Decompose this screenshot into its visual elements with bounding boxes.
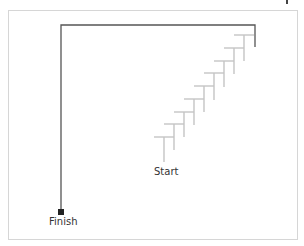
route-path [61,25,255,212]
start-label: Start [154,166,178,177]
staircase [154,35,254,162]
path-diagram [0,0,304,246]
finish-label: Finish [49,216,77,227]
finish-marker [58,209,64,215]
